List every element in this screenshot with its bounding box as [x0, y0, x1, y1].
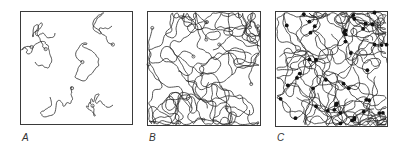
- panel-c-label: C: [277, 132, 284, 143]
- crosslink-dot: [309, 31, 313, 35]
- crosslink-dot: [286, 83, 290, 87]
- crosslink-dot: [362, 110, 366, 114]
- crosslink-dot: [339, 111, 343, 115]
- crosslink-dot: [373, 11, 377, 15]
- crosslink-dot: [311, 86, 315, 90]
- crosslink-dot: [308, 58, 312, 62]
- crosslink-dot: [377, 111, 381, 115]
- crosslink-dot: [347, 86, 351, 90]
- crosslink-dot: [339, 121, 343, 125]
- crosslink-dot: [370, 23, 374, 27]
- crosslink-dot: [294, 116, 298, 120]
- crosslink-dot: [344, 40, 348, 44]
- crosslink-dot: [380, 43, 384, 47]
- crosslink-dot: [285, 24, 289, 28]
- polymer-chain: [277, 13, 384, 57]
- crosslink-dot: [351, 13, 355, 17]
- crosslink-dot: [326, 109, 330, 113]
- crosslink-dot: [344, 28, 348, 32]
- crosslink-dot: [349, 51, 353, 55]
- crosslink-dot: [342, 82, 346, 86]
- crosslink-dot: [298, 72, 302, 76]
- panel-c-network: [0, 0, 407, 150]
- crosslink-dot: [314, 104, 318, 108]
- crosslink-dot: [295, 76, 299, 80]
- crosslink-dot: [313, 24, 317, 28]
- crosslink-dot: [279, 97, 283, 101]
- crosslink-dot: [324, 78, 328, 82]
- crosslink-dot: [352, 118, 356, 122]
- crosslink-dot: [381, 111, 385, 115]
- crosslink-dot: [367, 98, 371, 102]
- crosslink-dot: [353, 17, 357, 21]
- crosslink-dot: [314, 58, 318, 62]
- crosslink-dot: [302, 12, 306, 16]
- crosslink-dot: [385, 43, 389, 47]
- crosslink-dot: [364, 22, 368, 26]
- crosslink-dot: [373, 43, 377, 47]
- crosslink-dot: [307, 20, 311, 24]
- crosslink-dot: [335, 102, 339, 106]
- crosslink-dot: [332, 108, 336, 112]
- crosslink-dot: [361, 27, 365, 31]
- crosslink-dot: [365, 68, 369, 72]
